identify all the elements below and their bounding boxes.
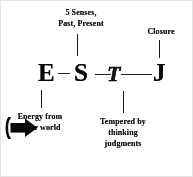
label-5-senses-past-present: 5 Senses, Past, Present <box>34 7 128 29</box>
label-energy-line1: Energy from <box>1 111 79 122</box>
letter-j: J <box>153 58 166 88</box>
connector-senses-to-s <box>77 34 78 56</box>
label-closure-line1: Closure <box>131 26 191 37</box>
letter-s: S <box>74 58 88 88</box>
label-tempered-line1: Tempered by <box>84 116 162 127</box>
connector-t-to-tempered <box>123 91 124 113</box>
letter-e: E <box>38 58 55 88</box>
label-senses-line1: 5 Senses, <box>34 7 128 18</box>
connector-closure-to-j <box>159 40 160 58</box>
label-tempered-line3: judgments <box>84 138 162 149</box>
diagram-canvas: 5 Senses, Past, Present Closure E S T J <box>0 0 193 177</box>
letter-row: E S T J <box>1 57 193 91</box>
label-closure: Closure <box>131 26 191 37</box>
letter-t: T <box>107 59 120 89</box>
label-tempered-by-thinking-judgments: Tempered by thinking judgments <box>84 116 162 149</box>
connector-e-to-s <box>58 73 70 74</box>
label-energy-from-outer-world: Energy from outer world <box>1 111 79 133</box>
label-tempered-line2: thinking <box>84 127 162 138</box>
connector-e-to-energy <box>41 90 42 108</box>
connector-t-to-j <box>121 74 152 75</box>
label-energy-line2: outer world <box>1 122 79 133</box>
label-senses-line2: Past, Present <box>34 18 128 29</box>
